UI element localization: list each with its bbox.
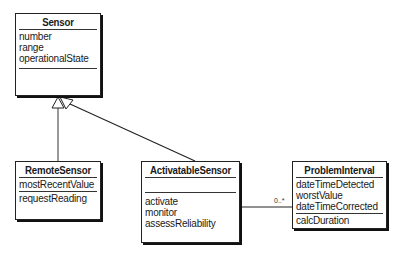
class-name: RemoteSensor [19,162,96,177]
attribute: operationalState [19,53,97,64]
attributes-compartment: dateTimeDetected worstValue dateTimeCorr… [293,178,386,213]
generalization-line-activatable [70,104,195,161]
attribute: dateTimeDetected [296,179,383,190]
class-activatable-sensor[interactable]: ActivatableSensor activate monitor asses… [141,161,240,243]
attributes-compartment: number range operationalState [16,30,100,65]
class-name: ActivatableSensor [146,162,235,177]
operation: requestReading [19,193,97,204]
operations-compartment: activate monitor assessReliability [142,193,239,230]
operations-compartment: requestReading [16,192,100,205]
operations-compartment [16,69,100,71]
attribute: mostRecentValue [19,179,97,190]
attributes-compartment: mostRecentValue [16,178,100,191]
operation: activate [145,196,236,207]
uml-diagram-canvas: Sensor number range operationalState Rem… [0,0,399,255]
attribute: range [19,42,97,53]
operations-compartment: calcDuration [293,214,386,227]
class-name: Sensor [19,14,96,29]
class-remote-sensor[interactable]: RemoteSensor mostRecentValue requestRead… [15,161,101,220]
operation: assessReliability [145,218,236,229]
attribute: worstValue [296,190,383,201]
operation: calcDuration [296,215,383,226]
multiplicity-label: 0..* [274,197,285,204]
attribute: dateTimeCorrected [296,201,383,212]
class-problem-interval[interactable]: ProblemInterval dateTimeDetected worstVa… [292,161,387,229]
attribute: number [19,31,97,42]
class-name: ProblemInterval [297,162,383,177]
attributes-compartment [142,178,239,192]
class-sensor[interactable]: Sensor number range operationalState [15,13,101,96]
operation: monitor [145,207,236,218]
